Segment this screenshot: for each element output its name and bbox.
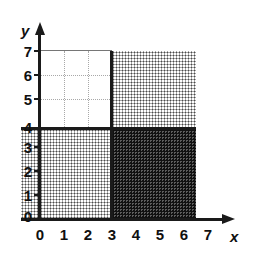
y-axis-label: y bbox=[21, 23, 29, 38]
x-axis-line bbox=[21, 218, 223, 221]
y-tick-label-6: 6 bbox=[18, 68, 32, 83]
y-tick-3 bbox=[34, 146, 41, 148]
x-tick-label-3: 3 bbox=[103, 227, 121, 242]
x-tick-label-0: 0 bbox=[31, 227, 49, 242]
y-axis-line bbox=[38, 33, 41, 220]
y-tick-label-2: 2 bbox=[18, 164, 32, 179]
boundary-line-y-equals-7 bbox=[40, 50, 112, 51]
x-tick-label-6: 6 bbox=[175, 227, 193, 242]
region-lower-right bbox=[112, 129, 196, 219]
x-tick-label-2: 2 bbox=[79, 227, 97, 242]
x-tick-label-1: 1 bbox=[55, 227, 73, 242]
coordinate-plane-figure: 7 6 5 4 3 2 1 0 0 1 2 3 4 5 6 7 y x bbox=[0, 0, 268, 269]
y-tick-7 bbox=[34, 50, 41, 52]
x-axis-label: x bbox=[230, 229, 238, 244]
region-upper-left bbox=[40, 51, 112, 129]
y-axis-arrowhead-icon bbox=[35, 22, 45, 35]
y-tick-label-1: 1 bbox=[18, 188, 32, 203]
x-tick-label-5: 5 bbox=[151, 227, 169, 242]
x-axis-arrowhead-icon bbox=[222, 214, 235, 224]
boundary-line-x-equals-3 bbox=[110, 51, 113, 219]
x-tick-label-7: 7 bbox=[199, 227, 217, 242]
y-tick-label-4: 4 bbox=[18, 120, 32, 135]
y-tick-label-7: 7 bbox=[18, 44, 32, 59]
y-tick-label-3: 3 bbox=[18, 140, 32, 155]
y-tick-2 bbox=[34, 170, 41, 172]
y-tick-label-0: 0 bbox=[18, 209, 32, 224]
y-tick-5 bbox=[34, 98, 41, 100]
y-tick-1 bbox=[34, 194, 41, 196]
region-upper-right bbox=[112, 51, 196, 129]
boundary-line-y-equals-4 bbox=[21, 127, 196, 130]
region-lower-left bbox=[40, 129, 112, 219]
y-tick-6 bbox=[34, 74, 41, 76]
x-tick-label-4: 4 bbox=[127, 227, 145, 242]
y-tick-label-5: 5 bbox=[18, 92, 32, 107]
